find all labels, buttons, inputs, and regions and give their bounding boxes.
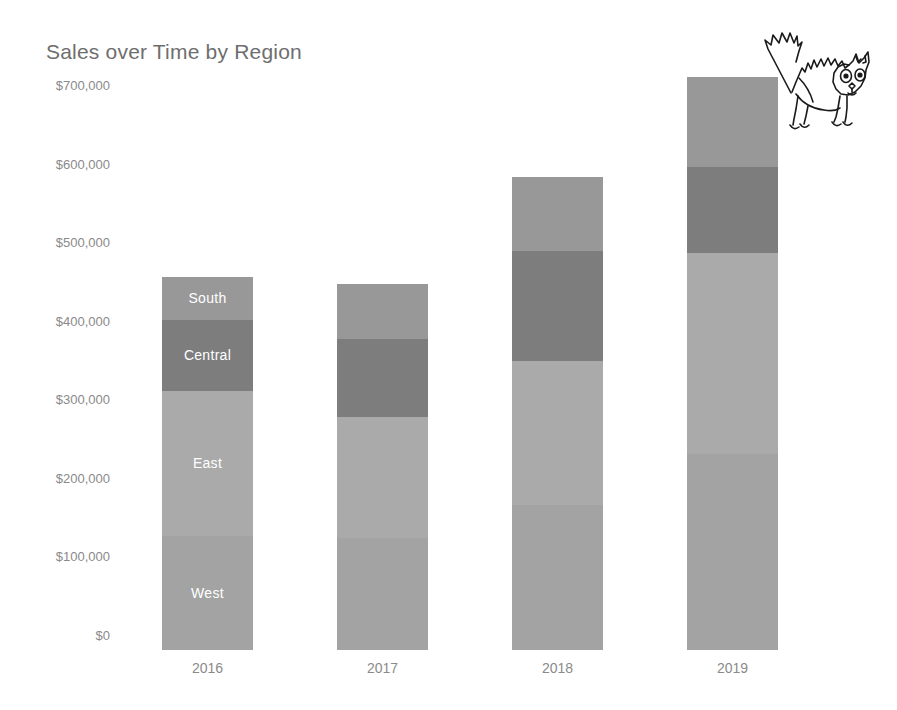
bar-segment-west[interactable]: West <box>162 536 253 650</box>
bar-segment-central[interactable]: Central <box>162 320 253 391</box>
bar-segment-central[interactable] <box>687 167 778 253</box>
bar-segment-south[interactable] <box>512 177 603 251</box>
y-axis-tick-label: $100,000 <box>56 549 110 564</box>
bar-segment-west[interactable] <box>337 538 428 650</box>
segment-label-central: Central <box>162 347 253 363</box>
bar-segment-west[interactable] <box>512 505 603 650</box>
plot-area: $0$100,000$200,000$300,000$400,000$500,0… <box>120 100 820 650</box>
y-axis-tick-label: $200,000 <box>56 470 110 485</box>
bar-segment-east[interactable] <box>512 361 603 505</box>
bar-segment-east[interactable] <box>337 417 428 537</box>
y-axis-tick-label: $700,000 <box>56 78 110 93</box>
x-axis-tick-label: 2019 <box>687 660 778 676</box>
stacked-bar[interactable] <box>687 77 778 650</box>
bar-segment-south[interactable]: South <box>162 277 253 320</box>
y-axis-tick-label: $300,000 <box>56 392 110 407</box>
bar-segment-south[interactable] <box>337 284 428 339</box>
bar-segment-east[interactable] <box>687 253 778 453</box>
x-axis-tick-label: 2017 <box>337 660 428 676</box>
y-axis-tick-label: $0 <box>96 628 110 643</box>
bar-segment-east[interactable]: East <box>162 391 253 536</box>
stacked-bar[interactable]: WestEastCentralSouth <box>162 277 253 650</box>
stacked-bar[interactable] <box>337 284 428 650</box>
y-axis-tick-label: $500,000 <box>56 235 110 250</box>
segment-label-west: West <box>162 585 253 601</box>
bar-segment-central[interactable] <box>512 251 603 361</box>
page-title: Sales over Time by Region <box>46 40 302 64</box>
bar-segment-west[interactable] <box>687 454 778 650</box>
segment-label-east: East <box>162 455 253 471</box>
x-axis-tick-label: 2016 <box>162 660 253 676</box>
y-axis-tick-label: $600,000 <box>56 156 110 171</box>
stacked-bar[interactable] <box>512 177 603 650</box>
bar-segment-central[interactable] <box>337 339 428 418</box>
y-axis-tick-label: $400,000 <box>56 313 110 328</box>
x-axis-tick-label: 2018 <box>512 660 603 676</box>
segment-label-south: South <box>162 290 253 306</box>
scared-cat-drawing-icon <box>752 16 887 136</box>
chart-container: Sales over Time by Region $0$100,000$200… <box>0 0 897 710</box>
